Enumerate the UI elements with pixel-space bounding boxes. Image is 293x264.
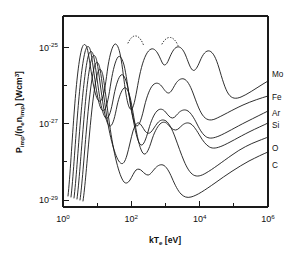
- x-tick-label-1: 102: [125, 213, 139, 225]
- curve-o: [80, 62, 268, 200]
- x-axis-title: kTe [eV]: [149, 235, 181, 246]
- curve-mo-dotted-segment-2: [162, 37, 178, 45]
- y-axis-title: Pimp/(nenimp) [Wcm3]: [13, 71, 25, 153]
- x-tick-labels: 100 102 104 106: [56, 213, 275, 225]
- series-label-o: O: [272, 144, 278, 153]
- x-tick-label-0: 100: [56, 213, 70, 225]
- y-tick-label-1: 10-27: [39, 117, 59, 128]
- curve-mo-dotted-segment-1: [128, 36, 144, 45]
- curves-group: [68, 36, 268, 201]
- x-tick-label-3: 106: [261, 213, 275, 225]
- series-label-fe: Fe: [272, 93, 282, 102]
- series-label-ar: Ar: [272, 109, 280, 118]
- series-label-c: C: [272, 161, 278, 170]
- x-tick-label-2: 104: [193, 213, 207, 225]
- radiative-cooling-rate-chart: 10-25 10-27 10-29 100 102 104 106 kTe [e…: [0, 0, 293, 264]
- series-label-si: Si: [272, 121, 279, 130]
- y-tick-label-0: 10-25: [39, 41, 59, 53]
- series-label-mo: Mo: [272, 70, 284, 79]
- y-tick-labels: 10-25 10-27 10-29: [39, 41, 59, 205]
- y-axis-ticks: [63, 47, 69, 200]
- curve-c: [83, 69, 268, 201]
- curve-fe: [71, 46, 268, 197]
- x-axis-ticks: [63, 201, 268, 207]
- curve-si: [77, 55, 268, 199]
- chart-canvas: 10-25 10-27 10-29 100 102 104 106 kTe [e…: [0, 0, 293, 264]
- y-tick-label-2: 10-29: [39, 194, 59, 206]
- series-labels-group: Mo Fe Ar Si O C: [272, 70, 284, 170]
